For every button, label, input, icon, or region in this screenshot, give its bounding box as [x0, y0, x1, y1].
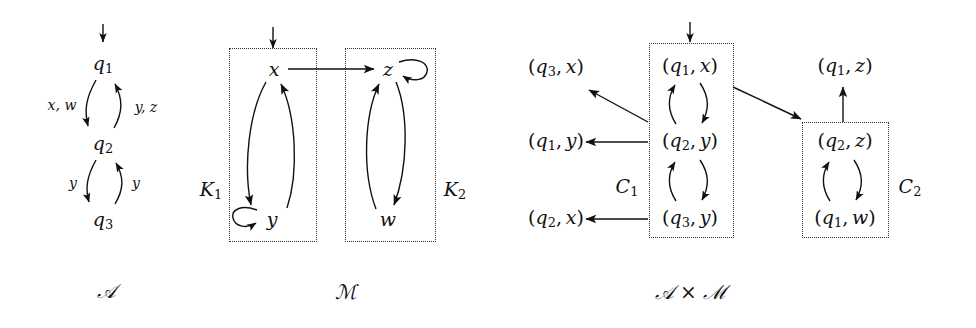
caption-model-M: ℳ	[335, 282, 356, 302]
figure-canvas: q1 q2 q3 x, w y, z y y x y z w K1 K2 (q3…	[0, 0, 976, 328]
state-q3: q3	[93, 210, 113, 232]
state-q2y-right: y	[700, 129, 711, 151]
state-q3x-left-sub: 3	[548, 64, 556, 79]
state-q1x-left-sub: 1	[682, 63, 690, 78]
state-q2x-left-base: q	[536, 206, 548, 228]
state-q2z-left-base: q	[825, 129, 837, 151]
state-q1x-right: x	[700, 54, 711, 76]
state-q2x-left-sub: 2	[548, 215, 556, 230]
state-q1-base: q	[93, 52, 105, 74]
state-q2-sub: 2	[105, 141, 113, 156]
edge-q1x-to-q2z	[733, 87, 801, 119]
state-q1x-left-base: q	[670, 54, 682, 76]
component-label-K1-base: K	[200, 178, 214, 200]
component-label-K1: K1	[200, 180, 222, 202]
state-q1w-left-base: q	[822, 206, 834, 228]
state-q2y-left-sub: 2	[682, 138, 690, 153]
state-q1: q1	[93, 54, 113, 76]
state-q3-base: q	[93, 208, 105, 230]
state-q2z-right: z	[855, 129, 865, 151]
caption-product-AxM: 𝒜 × ℳ	[655, 282, 725, 302]
state-q3x-right: x	[566, 55, 577, 77]
state-q1-sub: 1	[105, 61, 113, 76]
component-label-C1-sub: 1	[630, 184, 638, 199]
state-y: y	[267, 210, 278, 229]
state-q2z-left-sub: 2	[837, 138, 845, 153]
state-q1z-left-base: q	[825, 54, 837, 76]
state-q2y: (q2, y)	[662, 131, 718, 153]
state-q1z-right: z	[855, 54, 865, 76]
edge-label-q1-q2: x, w	[48, 98, 77, 112]
state-q2: q2	[93, 134, 113, 156]
state-q1z: (q1, z)	[817, 56, 872, 78]
state-q1y-left-sub: 1	[548, 138, 556, 153]
state-q2x: (q2, x)	[528, 208, 584, 230]
component-label-K1-sub: 1	[214, 187, 222, 202]
state-q3x: (q3, x)	[528, 57, 584, 79]
state-q3x-left-base: q	[536, 55, 548, 77]
state-q1w-left-sub: 1	[834, 215, 842, 230]
edge-label-q2-q1: y, z	[135, 100, 157, 114]
component-label-K2-base: K	[444, 178, 458, 200]
state-q2-base: q	[93, 132, 105, 154]
state-q1y-right: y	[566, 129, 577, 151]
component-label-C2-base: C	[899, 175, 914, 197]
state-q2y-left-base: q	[670, 129, 682, 151]
edge-q2y-to-q3x	[589, 90, 648, 122]
state-q1w: (q1, w)	[814, 208, 875, 230]
state-q3y-left-sub: 3	[682, 215, 690, 230]
state-x: x	[269, 60, 280, 79]
component-label-K2-sub: 2	[458, 187, 466, 202]
state-q1x: (q1, x)	[662, 56, 718, 78]
state-w: w	[380, 210, 396, 229]
component-label-C1: C1	[616, 177, 639, 199]
edge-q2-to-q3	[87, 160, 96, 202]
component-label-K2: K2	[444, 180, 466, 202]
edge-q1-to-q2	[86, 80, 96, 126]
edge-label-q2-q3: y	[69, 176, 77, 190]
state-q2z: (q2, z)	[817, 131, 872, 153]
state-q1y-left-base: q	[536, 129, 548, 151]
state-q3y: (q3, y)	[662, 208, 718, 230]
edge-q2-to-q1	[114, 84, 121, 128]
state-z: z	[383, 60, 393, 79]
state-q3-sub: 3	[105, 217, 113, 232]
state-q3y-right: y	[700, 206, 711, 228]
component-label-C2-sub: 2	[913, 184, 921, 199]
edge-q3-to-q2	[115, 163, 122, 204]
state-q1w-right: w	[852, 206, 868, 228]
state-q1y: (q1, y)	[528, 131, 584, 153]
state-q1z-left-sub: 1	[837, 63, 845, 78]
edge-label-q3-q2: y	[132, 176, 140, 190]
caption-automaton-A: 𝒜	[97, 281, 116, 301]
state-q3y-left-base: q	[670, 206, 682, 228]
state-q2x-right: x	[566, 206, 577, 228]
component-label-C1-base: C	[616, 175, 631, 197]
component-label-C2: C2	[899, 177, 922, 199]
